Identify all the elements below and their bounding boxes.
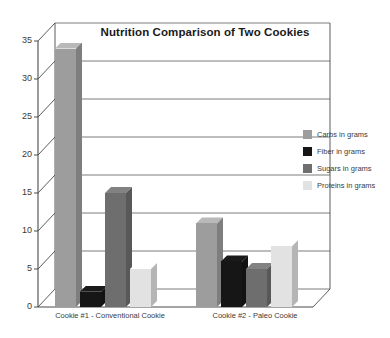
bar-front-face (271, 246, 292, 307)
legend-label-proteins: Proteins in grams (317, 181, 375, 190)
bar-front-face (196, 223, 217, 307)
bar-carbs-group-1 (55, 43, 82, 307)
bar-side-face (76, 43, 82, 307)
bar-proteins-group-1 (130, 263, 157, 307)
chart-title: Nutrition Comparison of Two Cookies (95, 26, 315, 38)
legend-label-fiber: Fiber in grams (317, 147, 365, 156)
chart-legend: Carbs in grams Fiber in grams Sugars in … (303, 126, 389, 194)
legend-swatch-sugars (303, 164, 312, 173)
legend-label-sugars: Sugars in grams (317, 164, 372, 173)
bar-side-face (151, 263, 157, 307)
x-axis-label-cookie-2: Cookie #2 - Paleo Cookie (175, 311, 335, 320)
chart-container: 35 30 25 20 15 10 5 0 Nutrition Comparis… (0, 0, 390, 338)
bar-sugars-group-2 (246, 263, 273, 307)
bar-proteins-group-2 (271, 240, 298, 307)
bar-side-face (292, 240, 298, 307)
legend-item-proteins: Proteins in grams (303, 177, 389, 194)
legend-item-sugars: Sugars in grams (303, 160, 389, 177)
bar-front-face (246, 269, 267, 307)
bar-front-face (55, 49, 76, 307)
bar-carbs-group-2 (196, 217, 223, 307)
legend-item-fiber: Fiber in grams (303, 143, 389, 160)
legend-label-carbs: Carbs in grams (317, 130, 368, 139)
bar-front-face (221, 261, 242, 307)
bar-front-face (105, 193, 126, 307)
bar-fiber-group-2 (221, 255, 248, 307)
bar-sugars-group-1 (105, 187, 132, 307)
bar-front-face (130, 269, 151, 307)
legend-swatch-fiber (303, 147, 312, 156)
bar-fiber-group-1 (80, 286, 107, 307)
x-axis-label-cookie-1: Cookie #1 - Conventional Cookie (30, 311, 190, 320)
bar-front-face (80, 292, 101, 307)
legend-swatch-carbs (303, 130, 312, 139)
legend-swatch-proteins (303, 181, 312, 190)
legend-item-carbs: Carbs in grams (303, 126, 389, 143)
